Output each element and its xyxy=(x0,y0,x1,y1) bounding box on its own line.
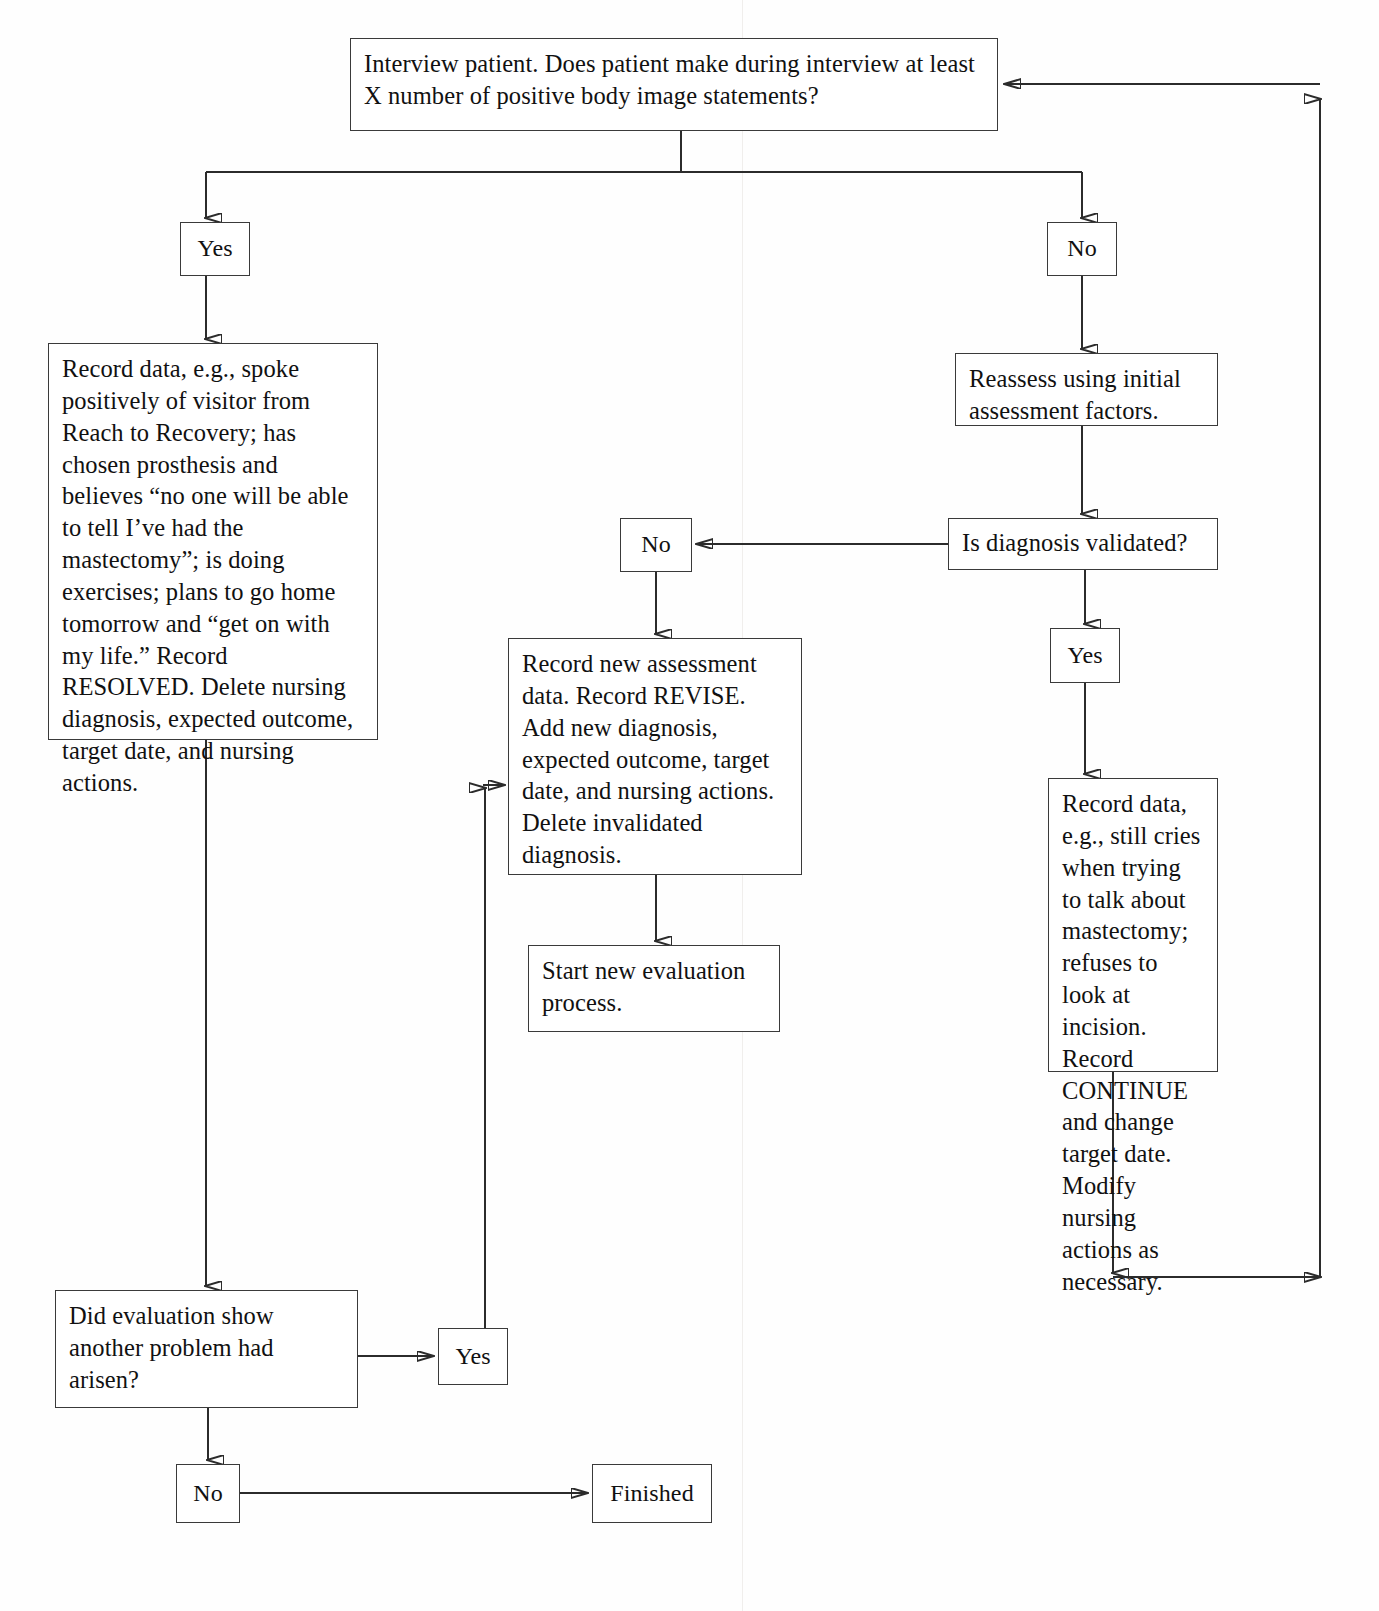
label-no-top-text: No xyxy=(1067,233,1097,264)
node-is-diagnosis-validated-text: Is diagnosis validated? xyxy=(962,529,1187,556)
node-record-revise-text: Record new assessment data. Record REVIS… xyxy=(522,650,774,868)
label-yes-bottom[interactable]: Yes xyxy=(438,1328,508,1385)
node-record-continue[interactable]: Record data, e.g., still cries when tryi… xyxy=(1048,778,1218,1072)
label-no-top[interactable]: No xyxy=(1047,222,1117,276)
node-start-new-evaluation[interactable]: Start new evaluation process. xyxy=(528,945,780,1032)
label-no-bottom-text: No xyxy=(193,1478,223,1509)
label-yes-bottom-text: Yes xyxy=(455,1341,490,1372)
label-no-middle-text: No xyxy=(641,529,671,560)
node-did-evaluation-text: Did evaluation show another problem had … xyxy=(69,1302,274,1393)
node-reassess[interactable]: Reassess using initial assessment factor… xyxy=(955,353,1218,426)
node-reassess-text: Reassess using initial assessment factor… xyxy=(969,365,1181,424)
node-interview-text: Interview patient. Does patient make dur… xyxy=(364,50,975,109)
label-yes-top[interactable]: Yes xyxy=(180,222,250,276)
label-no-bottom[interactable]: No xyxy=(176,1464,240,1523)
node-interview[interactable]: Interview patient. Does patient make dur… xyxy=(350,38,998,131)
label-yes-right[interactable]: Yes xyxy=(1050,628,1120,683)
flowchart-canvas: Interview patient. Does patient make dur… xyxy=(0,0,1379,1611)
label-yes-top-text: Yes xyxy=(197,233,232,264)
label-no-middle[interactable]: No xyxy=(620,518,692,572)
node-did-evaluation[interactable]: Did evaluation show another problem had … xyxy=(55,1290,358,1408)
node-is-diagnosis-validated[interactable]: Is diagnosis validated? xyxy=(948,518,1218,570)
node-finished[interactable]: Finished xyxy=(592,1464,712,1523)
node-record-continue-text: Record data, e.g., still cries when tryi… xyxy=(1062,790,1200,1295)
label-yes-right-text: Yes xyxy=(1067,640,1102,671)
node-record-resolved[interactable]: Record data, e.g., spoke positively of v… xyxy=(48,343,378,740)
node-start-new-evaluation-text: Start new evaluation process. xyxy=(542,957,745,1016)
node-record-resolved-text: Record data, e.g., spoke positively of v… xyxy=(62,355,353,796)
node-record-revise[interactable]: Record new assessment data. Record REVIS… xyxy=(508,638,802,875)
node-finished-text: Finished xyxy=(610,1478,693,1509)
